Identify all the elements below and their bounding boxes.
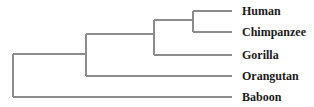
leaf-label-baboon: Baboon [242,90,281,104]
leaf-label-gorilla: Gorilla [242,48,279,62]
leaf-label-human: Human [242,4,281,18]
leaf-label-chimpanzee: Chimpanzee [242,25,306,39]
leaf-label-orangutan: Orangutan [242,69,299,83]
